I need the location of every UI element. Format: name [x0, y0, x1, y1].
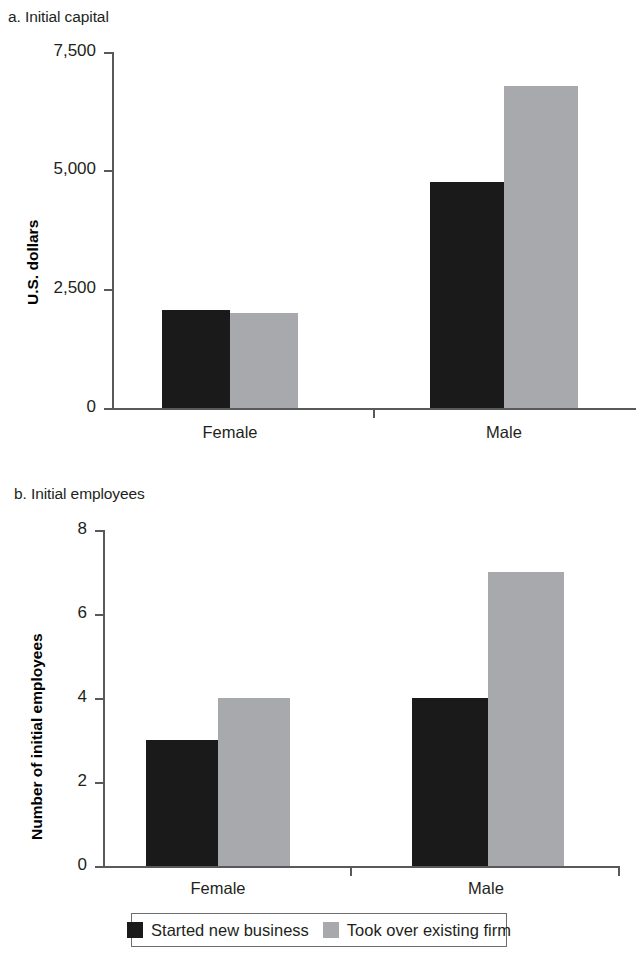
panel-b-ytick-label-4: 4	[20, 687, 87, 707]
panel-a-y-axis-line	[112, 52, 114, 409]
panel-b-ytick-6	[95, 614, 103, 616]
panel-b-category-label-female: Female	[158, 879, 278, 898]
legend: Started new business Took over existing …	[131, 913, 507, 947]
panel-b-ytick-0	[95, 866, 103, 868]
panel-a-bar-male-took-over-existing-firm	[504, 86, 578, 408]
panel-b-ytick-label-0: 0	[20, 855, 87, 875]
panel-initial-capital: a. Initial capital U.S. dollars 0 2,500 …	[0, 0, 636, 465]
panel-a-x-axis-line	[104, 408, 636, 410]
panel-b-ytick-4	[95, 698, 103, 700]
panel-b-plot-area: 0 2 4 6 8 Female Male	[0, 465, 636, 905]
legend-label-took-over-existing-firm: Took over existing firm	[347, 921, 511, 940]
panel-a-ytick-5000	[104, 170, 112, 172]
panel-a-bar-male-started-new-business	[430, 182, 504, 408]
panel-a-plot-area: 0 2,500 5,000 7,500 Female Male	[0, 0, 636, 465]
panel-a-ytick-label-0: 0	[20, 397, 96, 417]
legend-swatch-started-new-business	[127, 922, 143, 938]
panel-a-category-separator-tick	[373, 409, 375, 418]
panel-b-axis-end-tick	[618, 867, 620, 876]
legend-entry-took-over-existing-firm: Took over existing firm	[323, 921, 511, 940]
legend-entry-started-new-business: Started new business	[127, 921, 309, 940]
panel-b-bar-female-started-new-business	[146, 740, 218, 866]
panel-a-category-label-male: Male	[444, 423, 564, 442]
panel-b-ytick-label-6: 6	[20, 603, 87, 623]
panel-a-ytick-7500	[104, 52, 112, 54]
legend-label-started-new-business: Started new business	[151, 921, 309, 940]
panel-b-category-separator-tick	[350, 867, 352, 876]
panel-b-ytick-2	[95, 782, 103, 784]
panel-b-bar-male-started-new-business	[412, 698, 488, 866]
panel-a-bar-female-took-over-existing-firm	[230, 313, 298, 408]
panel-b-bar-male-took-over-existing-firm	[488, 572, 564, 866]
panel-b-x-axis-line	[95, 866, 620, 868]
legend-swatch-took-over-existing-firm	[323, 922, 339, 938]
panel-b-y-axis-line	[103, 530, 105, 867]
panel-b-ytick-8	[95, 530, 103, 532]
panel-b-ytick-label-8: 8	[20, 519, 87, 539]
panel-a-ytick-label-7500: 7,500	[20, 41, 96, 61]
panel-a-category-label-female: Female	[170, 423, 290, 442]
panel-a-ytick-2500	[104, 289, 112, 291]
panel-a-ytick-label-5000: 5,000	[20, 159, 96, 179]
panel-a-bar-female-started-new-business	[162, 310, 230, 408]
panel-a-ytick-0	[104, 408, 112, 410]
panel-a-ytick-label-2500: 2,500	[20, 278, 96, 298]
panel-b-ytick-label-2: 2	[20, 771, 87, 791]
panel-initial-employees: b. Initial employees Number of initial e…	[0, 465, 636, 905]
panel-b-bar-female-took-over-existing-firm	[218, 698, 290, 866]
panel-b-category-label-male: Male	[426, 879, 546, 898]
